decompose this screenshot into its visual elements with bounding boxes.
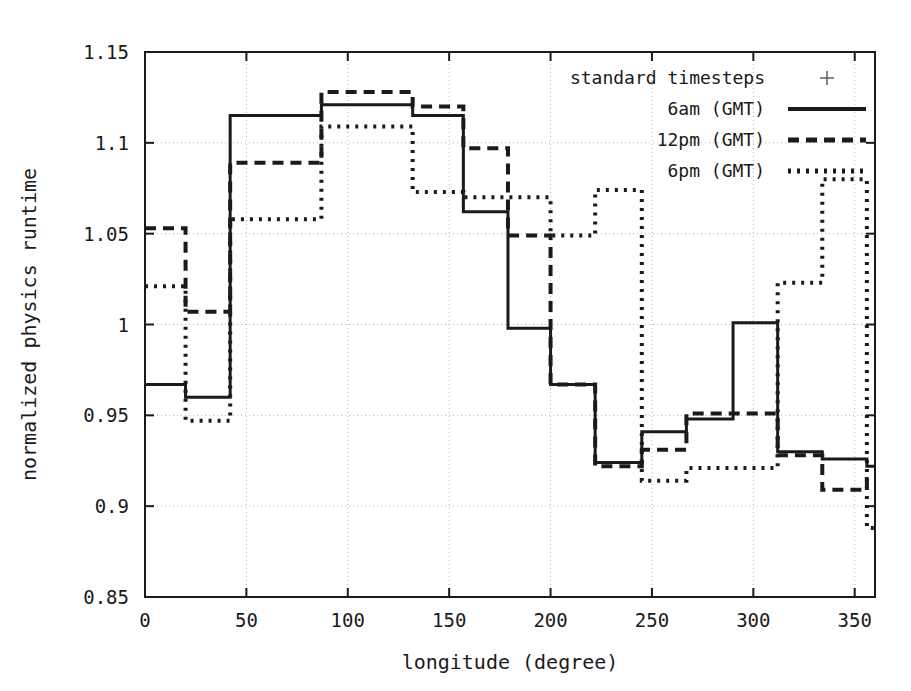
x-tick-label: 0 — [139, 609, 150, 631]
y-tick-label: 1 — [118, 314, 129, 336]
chart-canvas: 050100150200250300350 0.850.90.9511.051.… — [0, 0, 911, 691]
x-tick-label: 350 — [838, 609, 872, 631]
x-tick-label: 200 — [533, 609, 567, 631]
y-tick-label: 0.85 — [83, 586, 129, 608]
chart-background — [0, 0, 911, 691]
legend-label: 6pm (GMT) — [667, 160, 765, 181]
chart-figure: 050100150200250300350 0.850.90.9511.051.… — [0, 0, 911, 691]
legend-label: 12pm (GMT) — [657, 129, 765, 150]
y-tick-label: 1.05 — [83, 223, 129, 245]
y-tick-label: 1.1 — [95, 132, 129, 154]
y-tick-label: 0.95 — [83, 404, 129, 426]
legend-label: standard timesteps — [570, 67, 765, 88]
x-tick-label: 100 — [331, 609, 365, 631]
y-tick-label: 1.15 — [83, 41, 129, 63]
x-tick-label: 300 — [736, 609, 770, 631]
legend-label: 6am (GMT) — [667, 98, 765, 119]
x-tick-label: 50 — [235, 609, 258, 631]
x-tick-label: 250 — [635, 609, 669, 631]
y-tick-label: 0.9 — [95, 495, 129, 517]
y-axis-title: normalized physics runtime — [17, 168, 41, 481]
x-axis-title: longitude (degree) — [402, 650, 619, 674]
x-tick-label: 150 — [432, 609, 466, 631]
